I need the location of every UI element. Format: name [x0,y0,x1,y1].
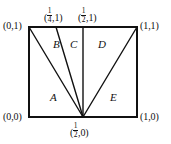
region-label-c: C [70,39,77,50]
coord-label-half-top: (12,1) [78,7,97,24]
coord-label-top-right: (1,1) [140,21,159,31]
geometry-figure: (14,1) (12,1) (0,1) (1,1) (0,0) (1,0) (1… [0,0,171,144]
region-label-a: A [50,92,57,103]
region-label-d: D [98,39,106,50]
coord-label-top-left: (0,1) [3,21,22,31]
coord-label-bottom-left: (0,0) [3,112,22,122]
coord-label-quarter-top: (14,1) [44,7,63,24]
fraction-one-half-top: 12 [81,7,85,24]
fraction-one-quarter: 14 [47,7,51,24]
coord-label-apex: (12,0) [70,122,89,139]
fraction-one-half-apex: 12 [73,122,77,139]
region-label-b: B [53,39,60,50]
region-label-e: E [110,92,117,103]
coord-label-bottom-right: (1,0) [140,112,159,122]
